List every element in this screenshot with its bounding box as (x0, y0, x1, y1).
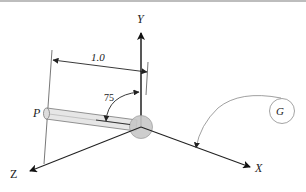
extension-line-right (146, 62, 148, 95)
y-axis-label: Y (137, 12, 145, 26)
extension-line-left (44, 50, 52, 164)
z-axis-label: Z (10, 167, 17, 181)
angle-label: 75 (104, 92, 114, 103)
gravity-arrow (196, 96, 281, 148)
point-label: P (32, 106, 41, 120)
ground-label: G (276, 105, 284, 117)
x-axis-label: X (254, 161, 263, 175)
dimension-label: 1.0 (91, 51, 105, 63)
x-axis (141, 127, 250, 167)
z-axis (30, 127, 141, 171)
pendulum-diagram: Y X Z P 1.0 75 G (0, 0, 306, 192)
pendulum-rod (44, 108, 138, 131)
